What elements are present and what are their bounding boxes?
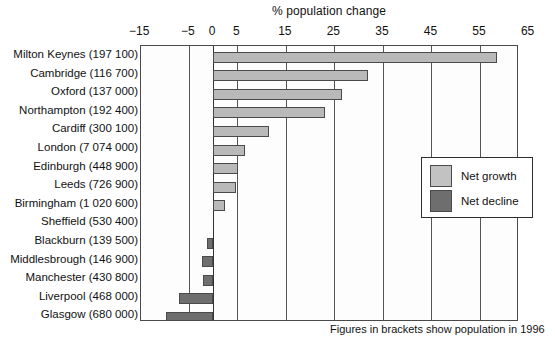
x-tick-label-65: 65 xyxy=(521,24,534,38)
legend-item-net-growth: Net growth xyxy=(430,165,517,187)
y-axis-label: Milton Keynes (197 100) xyxy=(0,48,138,60)
bar xyxy=(213,145,245,156)
x-tick-label-55: 55 xyxy=(472,24,485,38)
bar xyxy=(213,200,225,211)
y-axis-label: Cambridge (116 700) xyxy=(0,67,138,79)
legend-swatch-net-growth xyxy=(430,165,452,187)
bar xyxy=(207,238,213,249)
bar xyxy=(166,312,213,321)
legend-swatch-net-decline xyxy=(430,190,452,212)
x-tick-label-45: 45 xyxy=(424,24,437,38)
y-axis-label: London (7 074 000) xyxy=(0,141,138,153)
bar xyxy=(213,163,238,174)
y-axis-label: Manchester (430 800) xyxy=(0,271,138,283)
bar xyxy=(213,70,368,81)
x-tick-label--15: −15 xyxy=(129,24,149,38)
legend-label-net-growth: Net growth xyxy=(461,170,517,182)
y-axis-label: Liverpool (468 000) xyxy=(0,290,138,302)
x-tick-label-5: 5 xyxy=(233,24,240,38)
bar xyxy=(213,107,325,118)
bar xyxy=(179,293,213,304)
legend: Net growth Net decline xyxy=(421,157,533,218)
y-axis-label: Sheffield (530 400) xyxy=(0,215,138,227)
x-tick-label-35: 35 xyxy=(375,24,388,38)
x-axis-tick-labels: −15−505152535455565 xyxy=(0,24,555,40)
bar xyxy=(202,256,213,267)
y-axis-label: Birmingham (1 020 600) xyxy=(0,197,138,209)
y-axis-label: Middlesbrough (146 900) xyxy=(0,253,138,265)
y-axis-label: Glasgow (680 000) xyxy=(0,308,138,320)
population-change-chart: % population change −15−505152535455565 … xyxy=(0,0,555,341)
y-axis-label: Cardiff (300 100) xyxy=(0,122,138,134)
bar xyxy=(213,52,497,63)
bar xyxy=(213,89,342,100)
y-axis-category-labels: Milton Keynes (197 100)Cambridge (116 70… xyxy=(0,45,138,321)
legend-item-net-decline: Net decline xyxy=(430,190,519,212)
bar xyxy=(203,275,213,286)
x-tick-label-0: 0 xyxy=(209,24,216,38)
x-tick-label--5: −5 xyxy=(181,24,195,38)
chart-title: % population change xyxy=(140,4,518,18)
bar xyxy=(213,182,236,193)
y-axis-label: Edinburgh (448 900) xyxy=(0,160,138,172)
y-axis-label: Leeds (726 900) xyxy=(0,178,138,190)
chart-footnote: Figures in brackets show population in 1… xyxy=(330,323,545,335)
x-tick-label-15: 15 xyxy=(278,24,291,38)
y-axis-label: Blackburn (139 500) xyxy=(0,234,138,246)
y-axis-label: Northampton (192 400) xyxy=(0,104,138,116)
y-axis-label: Oxford (137 000) xyxy=(0,85,138,97)
bar xyxy=(213,126,269,137)
x-tick-label-25: 25 xyxy=(327,24,340,38)
legend-label-net-decline: Net decline xyxy=(461,195,519,207)
